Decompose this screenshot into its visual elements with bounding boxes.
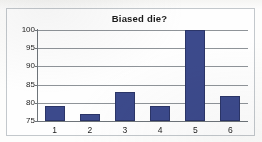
bar-1 — [45, 106, 65, 121]
x-tick-label-4: 4 — [150, 123, 170, 137]
bar-6 — [220, 96, 240, 121]
gridline-95 — [37, 48, 248, 49]
x-tick-label-3: 3 — [115, 123, 135, 137]
y-tick-label-80: 80 — [9, 99, 35, 107]
y-tick-label-100: 100 — [9, 26, 35, 34]
gridline-90 — [37, 66, 248, 67]
scanned-page-background: Biased die? 7580859095100 123456 — [0, 0, 262, 142]
chart-title: Biased die? — [7, 13, 254, 24]
y-tick-label-75: 75 — [9, 117, 35, 125]
y-tick-mark-90 — [35, 66, 38, 67]
y-tick-label-85: 85 — [9, 81, 35, 89]
y-tick-label-90: 90 — [9, 62, 35, 70]
y-tick-label-95: 95 — [9, 44, 35, 52]
gridline-100 — [37, 30, 248, 31]
x-tick-label-6: 6 — [220, 123, 240, 137]
y-tick-mark-80 — [35, 103, 38, 104]
gridline-75 — [37, 121, 248, 122]
gridline-80 — [37, 103, 248, 104]
x-tick-label-2: 2 — [80, 123, 100, 137]
y-tick-mark-75 — [35, 121, 38, 122]
y-tick-mark-95 — [35, 48, 38, 49]
plot-area — [37, 30, 248, 121]
x-tick-label-5: 5 — [185, 123, 205, 137]
bar-4 — [150, 106, 170, 121]
bar-5 — [185, 30, 205, 121]
y-axis-tick-labels: 7580859095100 — [7, 30, 35, 121]
x-tick-label-1: 1 — [45, 123, 65, 137]
bar-2 — [80, 114, 100, 121]
x-axis-tick-labels: 123456 — [37, 123, 248, 137]
gridline-85 — [37, 85, 248, 86]
y-tick-mark-85 — [35, 85, 38, 86]
bar-3 — [115, 92, 135, 121]
y-tick-mark-100 — [35, 30, 38, 31]
chart-frame: Biased die? 7580859095100 123456 — [6, 8, 255, 136]
